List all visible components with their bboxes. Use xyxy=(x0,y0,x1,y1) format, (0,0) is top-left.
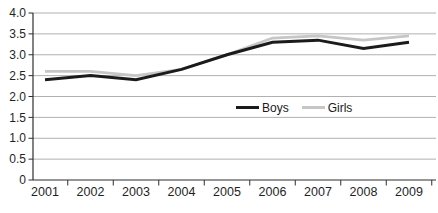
x-tick-label: 2009 xyxy=(395,185,423,199)
girls-line-swatch xyxy=(302,106,325,109)
line-chart: 00.51.01.52.02.53.03.54.0200120022003200… xyxy=(0,0,438,213)
x-tick-label: 2003 xyxy=(122,185,150,199)
x-tick-label: 2005 xyxy=(213,185,241,199)
y-tick-label: 3.5 xyxy=(9,27,26,41)
legend-item-girls: Girls xyxy=(302,102,353,114)
y-tick-label: 3.0 xyxy=(9,48,26,62)
chart-area: 00.51.01.52.02.53.03.54.0200120022003200… xyxy=(0,0,438,213)
x-tick-label: 2001 xyxy=(31,185,59,199)
x-tick-label: 2002 xyxy=(77,185,105,199)
y-tick-label: 0.5 xyxy=(9,152,26,166)
x-tick-label: 2006 xyxy=(259,185,287,199)
boys-line-swatch xyxy=(236,106,259,109)
y-tick-label: 0 xyxy=(19,173,26,187)
y-tick-label: 4.0 xyxy=(9,6,26,20)
y-tick-label: 1.0 xyxy=(9,131,26,145)
legend-item-boys: Boys xyxy=(236,102,289,114)
x-tick-label: 2007 xyxy=(304,185,332,199)
y-tick-label: 2.5 xyxy=(9,69,26,83)
legend-label-boys: Boys xyxy=(262,102,289,114)
legend-label-girls: Girls xyxy=(328,102,353,114)
chart-legend: Boys Girls xyxy=(236,100,352,115)
x-tick-label: 2008 xyxy=(350,185,378,199)
y-tick-label: 2.0 xyxy=(9,90,26,104)
boys-line xyxy=(45,40,409,80)
x-tick-label: 2004 xyxy=(168,185,196,199)
y-tick-label: 1.5 xyxy=(9,111,26,125)
